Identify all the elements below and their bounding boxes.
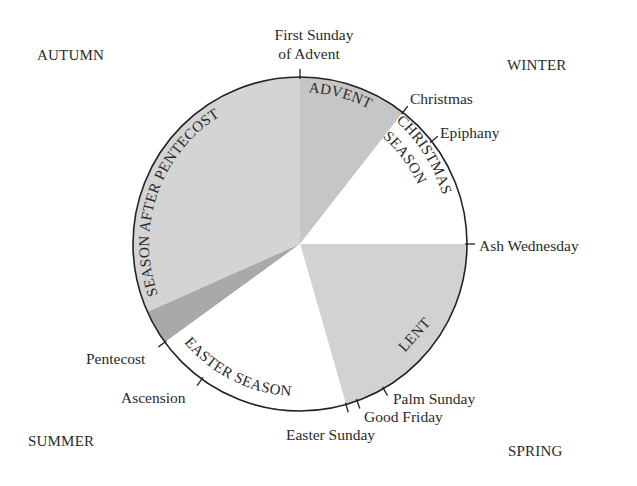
corner-label-autumn: AUTUMN [37, 47, 104, 63]
corner-label-winter: WINTER [507, 57, 567, 73]
corner-label-summer: SUMMER [28, 433, 94, 449]
corner-label-spring: SPRING [508, 443, 563, 459]
event-label-ash-wednesday: Ash Wednesday [479, 237, 579, 254]
event-label-christmas: Christmas [410, 90, 473, 107]
event-label-first-sunday-of-advent-2: of Advent [278, 45, 340, 62]
event-label-pentecost: Pentecost [86, 350, 146, 367]
event-label-first-sunday-of-advent: First Sunday [275, 26, 354, 43]
event-label-good-friday: Good Friday [364, 408, 443, 425]
liturgical-year-diagram: ADVENT SEASON AFTER PENTECOST EASTER SEA… [0, 0, 637, 486]
event-label-palm-sunday: Palm Sunday [393, 390, 475, 407]
event-label-easter-sunday: Easter Sunday [286, 426, 375, 443]
event-label-ascension: Ascension [121, 389, 186, 406]
event-label-epiphany: Epiphany [440, 124, 500, 141]
tick-epiphany [430, 136, 438, 142]
